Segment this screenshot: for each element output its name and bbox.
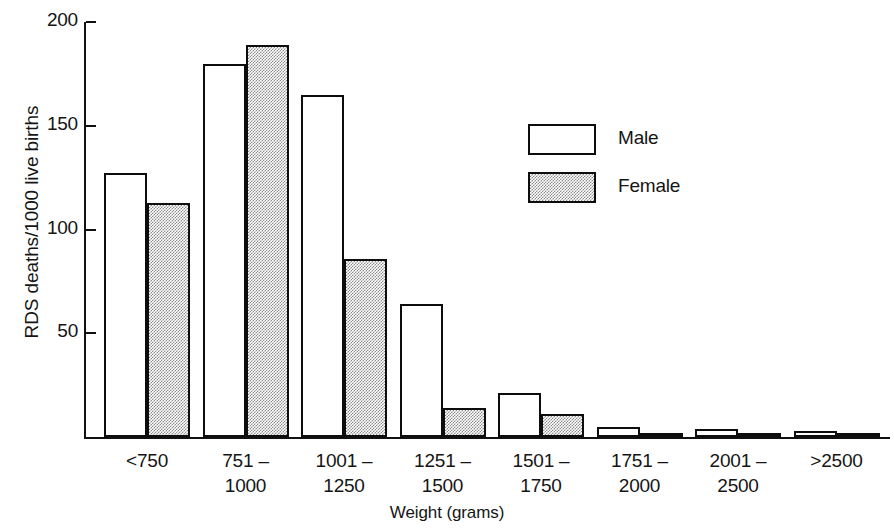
- x-axis-title: Weight (grams): [0, 503, 894, 523]
- x-axis-category-label-7: >2500: [777, 448, 894, 473]
- bar-female-2: [344, 259, 387, 437]
- bar-male-3: [400, 304, 443, 437]
- bar-female-7: [837, 433, 880, 437]
- bar-female-0: [147, 203, 190, 437]
- bar-male-5: [597, 427, 640, 437]
- legend-swatch-male: [528, 124, 596, 155]
- bar-female-4: [541, 414, 584, 437]
- bar-male-1: [203, 64, 246, 438]
- legend-swatch-female: [528, 172, 596, 203]
- bar-female-5: [640, 433, 683, 437]
- bar-female-6: [738, 433, 781, 437]
- bar-male-6: [695, 429, 738, 437]
- bar-male-4: [498, 393, 541, 437]
- bar-female-1: [246, 45, 289, 437]
- legend-label-female: Female: [618, 175, 680, 197]
- bar-female-3: [443, 408, 486, 437]
- legend-label-male: Male: [618, 127, 658, 149]
- rds-deaths-bar-chart: RDS deaths/1000 live births 50100150200 …: [0, 0, 894, 531]
- bar-male-0: [104, 173, 147, 437]
- bar-male-2: [301, 95, 344, 437]
- bar-male-7: [794, 431, 837, 437]
